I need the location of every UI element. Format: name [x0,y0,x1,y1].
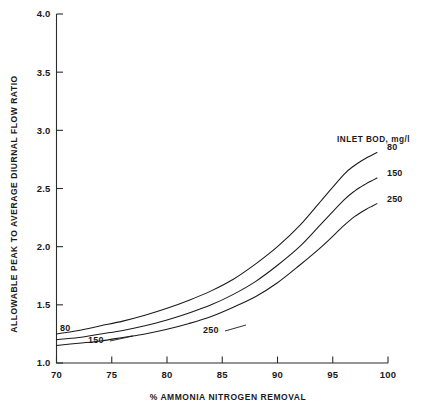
x-tick-labels: 707580859095100 [51,369,396,380]
x-tick-label: 75 [106,369,117,380]
series-label-left-150: 150 [88,335,104,345]
x-axis-title: % AMMONIA NITROGEN REMOVAL [150,392,307,402]
y-tick-labels: 1.01.52.02.53.03.54.0 [37,8,51,368]
y-tick-label: 2.5 [37,183,51,194]
y-tick-marks [57,14,64,363]
chart-container: 707580859095100 1.01.52.02.53.03.54.0 80… [0,0,422,418]
y-tick-label: 4.0 [37,8,51,19]
x-tick-label: 100 [380,369,396,380]
series-inline-labels: 8080150150250250 [60,142,403,345]
legend-title: INLET BOD, mg/l [337,135,410,144]
y-tick-label: 1.0 [37,357,51,368]
axis-lines [57,14,389,363]
y-axis-title: ALLOWABLE PEAK TO AVERAGE DIURNAL FLOW R… [9,75,19,332]
y-tick-label: 3.0 [37,125,51,136]
x-tick-marks [57,357,389,364]
y-tick-label: 1.5 [37,299,51,310]
series-label-right-150: 150 [387,168,403,178]
curve-150 [57,178,377,340]
leader-line-250 [225,325,246,331]
x-tick-label: 85 [217,369,228,380]
series-label-left-80: 80 [60,323,70,333]
data-curves [57,152,377,345]
label-leader-lines [110,325,246,341]
series-label-right-250: 250 [387,194,403,204]
y-tick-label: 3.5 [37,67,51,78]
y-tick-label: 2.0 [37,241,51,252]
x-tick-label: 70 [51,369,62,380]
series-label-left-250: 250 [203,325,219,335]
axes-group [57,14,389,363]
chart-svg: 707580859095100 1.01.52.02.53.03.54.0 80… [0,0,422,418]
curve-80 [57,152,377,333]
x-tick-label: 90 [272,369,283,380]
x-tick-label: 95 [327,369,338,380]
x-tick-label: 80 [162,369,173,380]
